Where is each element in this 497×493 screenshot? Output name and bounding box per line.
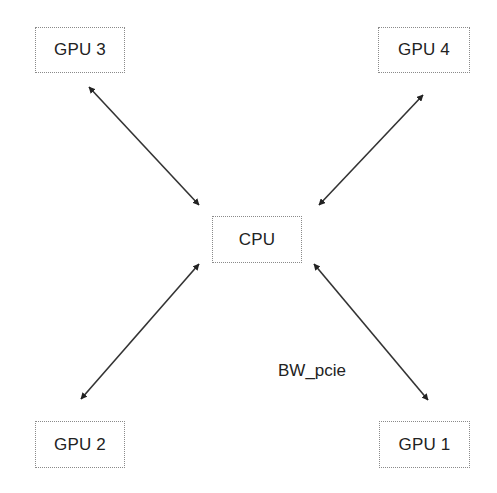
node-gpu-3: GPU 3 — [35, 27, 125, 73]
node-label: CPU — [239, 230, 276, 250]
edge-gpu4-cpu — [319, 95, 423, 205]
node-label: GPU 3 — [54, 40, 106, 60]
node-label: GPU 1 — [398, 435, 450, 455]
edge-label-bw-pcie: BW_pcie — [278, 361, 346, 381]
node-label: GPU 2 — [54, 435, 106, 455]
diagram-canvas: GPU 3 GPU 4 CPU GPU 2 GPU 1 BW_pcie — [0, 0, 497, 493]
edge-gpu3-cpu — [89, 87, 199, 205]
node-cpu: CPU — [212, 216, 302, 263]
node-gpu-2: GPU 2 — [35, 421, 125, 468]
edge-gpu2-cpu — [81, 264, 199, 399]
node-gpu-1: GPU 1 — [379, 421, 470, 468]
node-label: GPU 4 — [398, 40, 450, 60]
node-gpu-4: GPU 4 — [378, 27, 470, 73]
